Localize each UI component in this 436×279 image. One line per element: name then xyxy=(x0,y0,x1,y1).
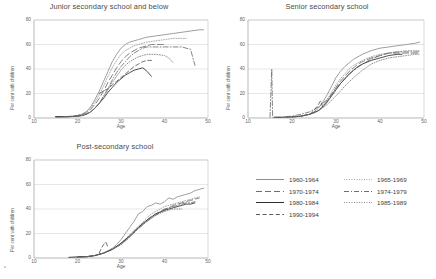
series-line xyxy=(274,53,419,117)
y-tick-label: 60 xyxy=(21,182,31,187)
plot-area: 020406080 1020304050 Age xyxy=(248,20,424,118)
legend-label: 1980-1984 xyxy=(289,199,319,206)
panel-junior-secondary: Junior secondary school and below Per ce… xyxy=(0,2,218,140)
legend-item[interactable]: 1960-1964 xyxy=(256,174,319,185)
legend-item[interactable]: 1990-1994 xyxy=(256,209,319,220)
legend-label: 1965-1969 xyxy=(377,176,407,183)
legend-swatch xyxy=(344,188,372,195)
panel-title: Post-secondary school xyxy=(0,142,230,151)
legend-label: 1970-1974 xyxy=(289,188,319,195)
plot-svg xyxy=(34,160,208,258)
series-line xyxy=(270,52,420,118)
series-line xyxy=(56,68,152,117)
gridlines xyxy=(34,20,208,94)
x-axis-label: Age xyxy=(34,264,208,269)
series-line xyxy=(64,54,173,116)
legend-swatch xyxy=(256,188,284,195)
corner-artifact xyxy=(4,266,6,268)
legend-swatch xyxy=(256,176,284,183)
y-tick-label: 20 xyxy=(235,91,245,96)
gridlines xyxy=(34,160,208,234)
y-tick-label: 40 xyxy=(235,66,245,71)
y-tick-label: 20 xyxy=(21,91,31,96)
series-line xyxy=(283,54,419,117)
legend-label: 1990-1994 xyxy=(289,211,319,218)
gridlines xyxy=(248,20,424,94)
series-line xyxy=(56,30,204,117)
series-lines xyxy=(69,188,204,257)
x-axis-label: Age xyxy=(248,124,424,129)
series-line xyxy=(69,203,195,258)
series-lines xyxy=(56,30,204,117)
legend-swatch xyxy=(256,211,284,218)
legend: 1960-19641970-19741980-19841990-19941965… xyxy=(256,174,434,224)
legend-item[interactable]: 1985-1989 xyxy=(344,197,407,208)
y-tick-label: 60 xyxy=(21,42,31,47)
legend-item[interactable]: 1980-1984 xyxy=(256,197,319,208)
plot-area: 020406080 1020304050 Age xyxy=(34,160,208,258)
series-lines xyxy=(270,42,420,117)
y-tick-label: 80 xyxy=(21,17,31,22)
y-tick-label: 80 xyxy=(235,17,245,22)
plot-svg xyxy=(248,20,424,118)
legend-label: 1974-1979 xyxy=(377,188,407,195)
panel-title: Junior secondary school and below xyxy=(0,2,218,11)
y-tick-label: 20 xyxy=(21,231,31,236)
y-tick-label: 60 xyxy=(235,42,245,47)
series-line xyxy=(69,188,204,257)
panel-post-secondary: Post-secondary school Per cent with chil… xyxy=(0,142,230,279)
legend-item[interactable]: 1965-1969 xyxy=(344,174,407,185)
y-tick-label: 80 xyxy=(21,157,31,162)
panel-senior-secondary: Senior secondary school Per cent with ch… xyxy=(218,2,436,140)
y-axis-label: Per cent with children xyxy=(10,208,15,252)
legend-swatch xyxy=(256,199,284,206)
x-axis-label: Age xyxy=(34,124,208,129)
series-line xyxy=(56,47,195,117)
legend-label: 1960-1964 xyxy=(289,176,319,183)
legend-item[interactable]: 1970-1974 xyxy=(256,186,319,197)
legend-swatch xyxy=(344,199,372,206)
panel-title: Senior secondary school xyxy=(218,2,436,11)
y-axis-label: Per cent with children xyxy=(10,66,15,110)
figure-root: Junior secondary school and below Per ce… xyxy=(0,0,436,279)
y-axis-label: Per cent with children xyxy=(226,66,231,110)
legend-swatch xyxy=(344,176,372,183)
legend-item[interactable]: 1974-1979 xyxy=(344,186,407,197)
y-tick-label: 40 xyxy=(21,206,31,211)
legend-label: 1985-1989 xyxy=(377,199,407,206)
plot-svg xyxy=(34,20,208,118)
plot-area: 020406080 1020304050 Age xyxy=(34,20,208,118)
series-line xyxy=(56,45,165,117)
y-tick-label: 40 xyxy=(21,66,31,71)
